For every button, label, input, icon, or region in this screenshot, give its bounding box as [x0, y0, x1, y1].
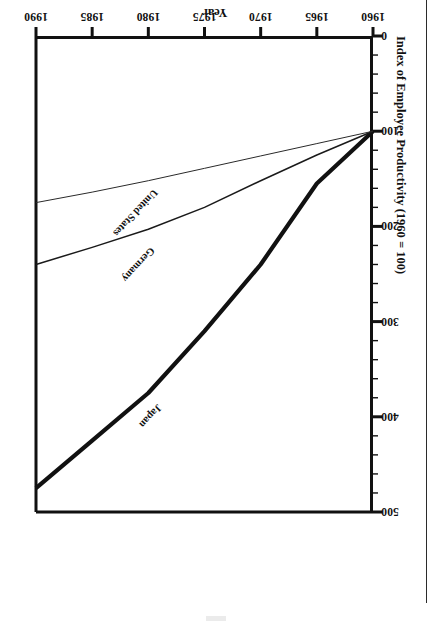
line-chart: 0100200300400500 19601965197019751980198… [0, 0, 430, 624]
series-line-germany [36, 131, 373, 264]
axis-ticks [36, 27, 382, 512]
x-axis-title: Year [0, 5, 430, 20]
series-lines [36, 131, 373, 488]
y-tick-label: 400 [381, 411, 419, 423]
series-line-japan [36, 131, 373, 488]
rotated-figure-container: 0100200300400500 19601965197019751980198… [0, 0, 430, 624]
scanned-page: 0100200300400500 19601965197019751980198… [0, 0, 430, 624]
y-axis-title: Index of Employee Productivity (1960 = 1… [393, 36, 408, 274]
y-tick-label: 500 [381, 506, 419, 518]
y-tick-label: 300 [381, 316, 419, 328]
plot-canvas [36, 36, 373, 512]
series-line-united-states [36, 131, 373, 202]
